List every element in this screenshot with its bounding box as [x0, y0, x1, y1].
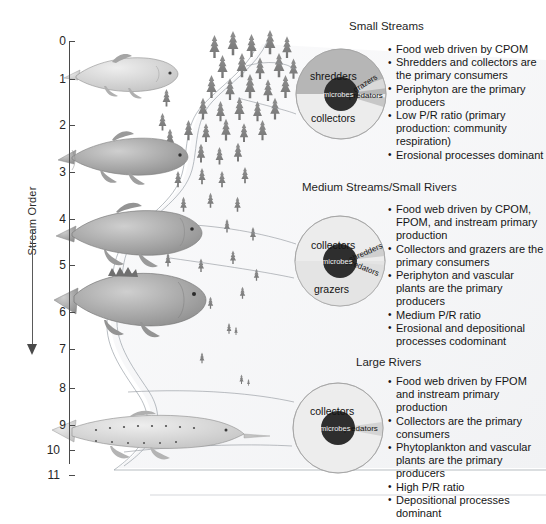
- axis-direction-arrow-line: [32, 230, 33, 348]
- axis-tick-label-1: 1: [44, 72, 66, 86]
- bullet-item: Food web driven by CPOM: [388, 43, 546, 56]
- bullet-item: High P/R ratio: [388, 481, 546, 494]
- axis-tick-label-2: 2: [44, 118, 66, 132]
- axis-tick: [69, 388, 75, 389]
- axis-tick-label-5: 5: [44, 258, 66, 272]
- axis-tick: [69, 312, 75, 313]
- axis-tick: [69, 172, 75, 173]
- axis-direction-arrow-icon: [27, 344, 37, 355]
- bullet-list-small-streams: Food web driven by CPOM Shredders and co…: [388, 43, 546, 162]
- axis-tick: [69, 349, 75, 350]
- fish-trout: [64, 54, 178, 99]
- bullet-item: Periphyton and vascular plants are the p…: [388, 269, 546, 309]
- axis-tick-label-11: 11: [38, 468, 60, 482]
- axis-tick-label-7: 7: [44, 342, 66, 356]
- river-continuum-figure: Stream Order 0 1 2 3 4 5 6 7 8 9 10 11 S…: [0, 0, 546, 524]
- axis-tick-label-8: 8: [44, 381, 66, 395]
- pie-center-label-microbes: microbes: [323, 90, 353, 99]
- bullet-item: Erosional and depositional processes cod…: [388, 322, 546, 348]
- bullet-item: Food web driven by FPOM and instream pri…: [388, 375, 546, 415]
- bullet-item: Collectors are the primary consumers: [388, 415, 546, 441]
- axis-tick: [69, 475, 75, 476]
- bullet-item: Medium P/R ratio: [388, 309, 546, 322]
- pie-slice-label-grazers: grazers: [314, 283, 349, 295]
- axis-tick-label-9: 9: [44, 418, 66, 432]
- bullet-item: Collectors and grazers are the primary c…: [388, 243, 546, 269]
- axis-tick: [69, 265, 75, 266]
- bullet-list-large-rivers: Food web driven by FPOM and instream pri…: [388, 375, 546, 520]
- axis-tick-label-0: 0: [44, 34, 66, 48]
- pie-slice-label-collectors: collectors: [311, 239, 355, 251]
- panel-title-large-rivers: Large Rivers: [356, 356, 421, 368]
- pie-center-label-microbes: microbes: [320, 424, 350, 433]
- bullet-item: Food web driven by CPOM, FPOM, and instr…: [388, 203, 546, 243]
- axis-line: [69, 41, 70, 464]
- axis-tick: [69, 425, 75, 426]
- bullet-item: Depositional processes dominant: [388, 494, 546, 520]
- panel-title-medium-streams: Medium Streams/Small Rivers: [302, 181, 457, 193]
- pie-slice-label-collectors: collectors: [310, 405, 354, 417]
- pie-center-label-microbes: microbes: [322, 257, 352, 266]
- bullet-list-medium-streams: Food web driven by CPOM, FPOM, and instr…: [388, 203, 546, 348]
- axis-tick: [69, 450, 75, 451]
- axis-tick: [69, 79, 75, 80]
- pie-slice-label-predators: predators: [349, 91, 383, 100]
- axis-tick-label-3: 3: [44, 165, 66, 179]
- pie-slice-label-collectors: collectors: [311, 112, 355, 124]
- bullet-item: Low P/R ratio (primary production: commu…: [388, 109, 546, 149]
- axis-tick-label-4: 4: [44, 212, 66, 226]
- bullet-item: Erosional processes dominant: [388, 149, 546, 162]
- pie-slice-label-shredders: shredders: [310, 70, 357, 82]
- panel-title-small-streams: Small Streams: [349, 20, 424, 32]
- bullet-item: Phytoplankton and vascular plants are th…: [388, 441, 546, 481]
- bullet-item: Periphyton are the primary producers: [388, 83, 546, 109]
- axis-tick: [69, 125, 75, 126]
- axis-tick: [69, 219, 75, 220]
- axis-tick: [69, 41, 75, 42]
- axis-tick-label-6: 6: [44, 305, 66, 319]
- bullet-item: Shredders and collectors are the primary…: [388, 56, 546, 82]
- axis-tick-label-10: 10: [38, 443, 60, 457]
